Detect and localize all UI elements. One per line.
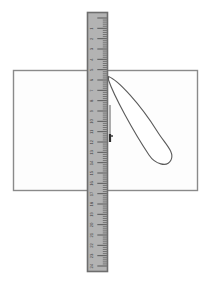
ruler-number: 19 bbox=[89, 212, 94, 217]
ruler-number: 21 bbox=[89, 232, 94, 237]
ruler-pen-paper-illustration: 123456789101112131415161718192021222324 bbox=[0, 0, 211, 289]
ruler-number: 12 bbox=[89, 139, 94, 144]
ruler-number: 14 bbox=[89, 160, 94, 165]
ruler-number: 22 bbox=[89, 243, 94, 248]
ruler-number: 11 bbox=[89, 129, 94, 134]
ruler-number: 13 bbox=[89, 150, 94, 155]
ruler: 123456789101112131415161718192021222324 bbox=[88, 13, 108, 272]
illustration-canvas: 123456789101112131415161718192021222324 bbox=[0, 0, 211, 289]
ruler-number: 20 bbox=[89, 222, 94, 227]
ruler-number: 18 bbox=[89, 201, 94, 206]
ruler-number: 24 bbox=[89, 263, 94, 268]
ruler-number: 16 bbox=[89, 181, 94, 186]
ruler-number: 15 bbox=[89, 170, 94, 175]
ruler-number: 23 bbox=[89, 253, 94, 258]
ruler-number: 17 bbox=[89, 191, 94, 196]
ruler-number: 10 bbox=[89, 119, 94, 124]
